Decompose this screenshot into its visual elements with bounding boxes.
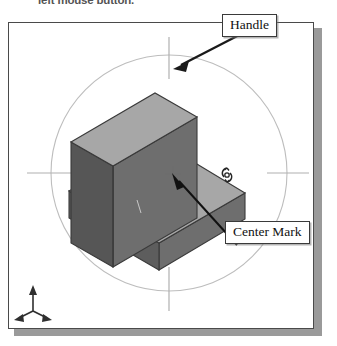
callout-center-mark: Center Mark [225,221,310,244]
caption-text: left mouse button. [38,0,218,6]
rotate-cursor-icon [217,165,237,185]
callout-center-mark-label: Center Mark [233,224,302,239]
figure-frame [8,22,314,329]
callout-handle: Handle [222,14,277,37]
coordinate-axis-triad [14,285,52,322]
leader-arrow-handle [173,32,245,72]
callout-handle-label: Handle [230,17,269,32]
drawing-canvas[interactable] [9,23,313,328]
